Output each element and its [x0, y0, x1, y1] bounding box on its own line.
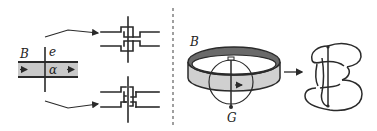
- lower-crossing: [101, 77, 159, 122]
- vertex-icon: [229, 105, 233, 109]
- figure-canvas: B e α: [0, 0, 377, 131]
- band-b: [18, 62, 78, 77]
- graph-label-g: G: [227, 111, 237, 125]
- upper-crossing: [101, 17, 159, 62]
- arrow-to-upper-crossing-icon: [45, 30, 98, 37]
- left-panel: B e α: [18, 17, 159, 122]
- arrow-to-lower-crossing-icon: [45, 101, 98, 108]
- band-label-b-right: B: [189, 35, 199, 49]
- band-label-b: B: [19, 47, 29, 61]
- arc-label-alpha: α: [49, 63, 57, 77]
- edge-label-e: e: [49, 45, 56, 59]
- right-panel: B G: [188, 35, 362, 125]
- result-knot: [305, 44, 362, 111]
- annulus-band-b: [188, 47, 280, 91]
